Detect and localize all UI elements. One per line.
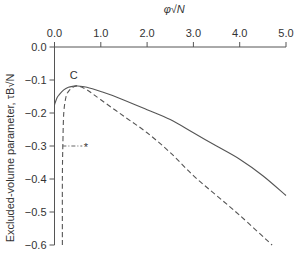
y-tick-label: −0.1 — [25, 74, 47, 86]
x-tick-label: 3.0 — [186, 27, 201, 39]
x-tick-label: 2.0 — [139, 27, 154, 39]
series-solid — [55, 86, 287, 196]
x-tick-label: 1.0 — [93, 27, 108, 39]
x-axis-title: φ√N — [164, 3, 185, 15]
y-tick-label: −0.3 — [25, 140, 47, 152]
y-tick-label: 0.0 — [31, 41, 46, 53]
y-tick-label: −0.2 — [25, 107, 47, 119]
y-axis-title: Excluded-volume parameter, τB√N — [4, 74, 16, 243]
y-tick-label: −0.4 — [25, 173, 47, 185]
point-c-label: C — [70, 69, 78, 81]
chart: 0.01.02.03.04.05.0φ√N0.0−0.1−0.2−0.3−0.4… — [0, 0, 307, 264]
y-tick-label: −0.5 — [25, 206, 47, 218]
series-dashed — [62, 86, 272, 245]
y-tick-label: −0.6 — [25, 239, 47, 251]
x-tick-label: 5.0 — [278, 27, 293, 39]
asterisk-marker: * — [84, 141, 89, 153]
x-tick-label: 0.0 — [47, 27, 62, 39]
x-tick-label: 4.0 — [232, 27, 247, 39]
